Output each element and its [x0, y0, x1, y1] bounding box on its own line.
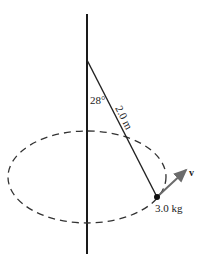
mass-bob — [154, 194, 160, 200]
pendulum-string — [87, 60, 157, 197]
velocity-label: v — [189, 167, 194, 178]
angle-label: 28° — [90, 94, 105, 106]
velocity-arrow — [157, 170, 186, 197]
conical-pendulum-diagram: 28° 2.0 m 3.0 kg v — [0, 0, 202, 264]
mass-label: 3.0 kg — [155, 202, 183, 214]
